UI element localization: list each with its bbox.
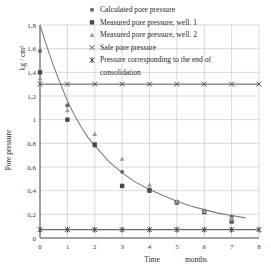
- y-tick-label: 1,6: [27, 45, 36, 53]
- x-tick-label: 8: [257, 243, 261, 251]
- pore-pressure-chart: 00,20,40,60,811,21,41,61,8 012345678 Cal…: [0, 0, 271, 279]
- data-point-marker: [65, 117, 69, 121]
- x-tick-label: 7: [230, 243, 234, 251]
- y-tick-label: 0,8: [27, 140, 36, 148]
- data-point-marker: [65, 103, 69, 107]
- x-axis-title: Time: [144, 255, 160, 264]
- legend-label: consolidation: [100, 68, 141, 77]
- legend-label: Calculated pore pressure: [100, 5, 176, 14]
- data-point-marker: [38, 70, 42, 74]
- y-tick-label: 0: [33, 235, 37, 243]
- data-point-marker: [120, 170, 124, 174]
- data-point-marker: [38, 49, 42, 53]
- y-tick-label: 1,2: [27, 93, 36, 101]
- legend-label: Measured pore pressure, well. 2: [100, 30, 197, 39]
- legend-label: Measured pore pressure, well. 1: [100, 18, 197, 27]
- x-axis-unit: months: [185, 255, 207, 264]
- y-tick-label: 1,8: [27, 22, 36, 30]
- x-tick-label: 0: [38, 243, 42, 251]
- legend-label: Pressure corresponding to the end of: [100, 55, 212, 64]
- y-axis-title: Pore pressure: [4, 129, 13, 170]
- x-tick-label: 3: [120, 243, 124, 251]
- x-tick-label: 6: [203, 243, 207, 251]
- legend-label: Safe pore pressure: [100, 43, 157, 52]
- y-tick-label: 0,2: [27, 211, 36, 219]
- data-point-marker: [120, 184, 124, 188]
- x-tick-label: 1: [66, 243, 70, 251]
- legend-marker: [90, 20, 94, 24]
- x-tick-label: 2: [93, 243, 97, 251]
- y-tick-label: 1,4: [27, 69, 36, 77]
- y-axis-unit: kg / cm²: [18, 45, 27, 70]
- y-tick-label: 0,6: [27, 164, 36, 172]
- legend-marker: [90, 8, 94, 12]
- y-tick-label: 0,4: [27, 187, 36, 195]
- x-tick-label: 4: [148, 243, 152, 251]
- data-point-marker: [93, 142, 97, 146]
- data-point-marker: [147, 188, 151, 192]
- y-tick-label: 1: [33, 116, 37, 124]
- x-tick-label: 5: [175, 243, 179, 251]
- chart-container: 00,20,40,60,811,21,41,61,8 012345678 Cal…: [0, 0, 271, 279]
